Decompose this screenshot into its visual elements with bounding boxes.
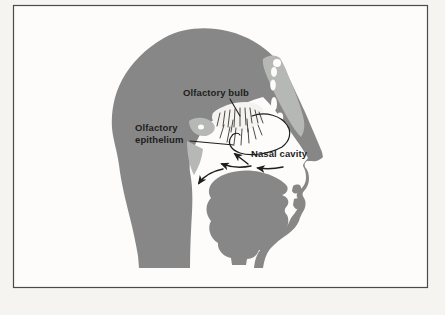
olfactory-epithelium-label-line2: epithelium	[135, 134, 184, 145]
sinus-hole	[271, 67, 277, 77]
figure-canvas: Olfactory bulb Olfactory epithelium Nasa…	[0, 0, 445, 315]
bone-hole	[198, 125, 204, 130]
nasal-cavity-label: Nasal cavity	[251, 148, 308, 159]
sinus-hole	[273, 59, 281, 67]
figure: Olfactory bulb Olfactory epithelium Nasa…	[0, 0, 445, 315]
sinus-hole	[271, 97, 277, 111]
sinus-hole	[270, 80, 276, 91]
olfactory-epithelium-label-line1: Olfactory	[135, 122, 178, 133]
olfactory-bulb-label: Olfactory bulb	[183, 87, 249, 98]
lip-seam	[293, 198, 302, 209]
